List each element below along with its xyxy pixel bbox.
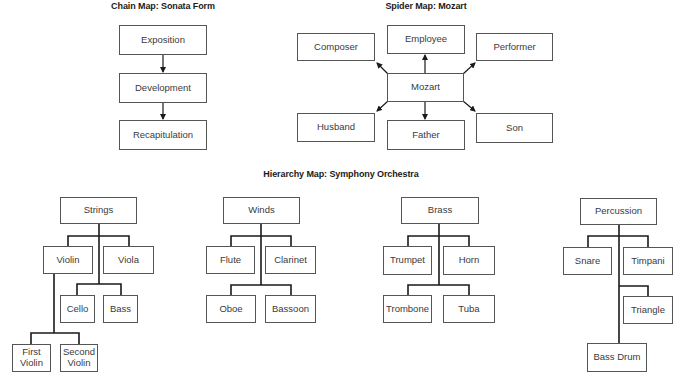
spider-map-title: Spider Map: Mozart — [385, 1, 466, 11]
instrument-oboe: Oboe — [206, 295, 256, 323]
instrument-violin: Violin — [43, 246, 93, 274]
instrument-timpani: Timpani — [623, 247, 673, 275]
chain-map-title: Chain Map: Sonata Form — [111, 1, 215, 11]
instrument-trumpet: Trumpet — [383, 246, 432, 275]
spider-node-performer: Performer — [476, 33, 553, 61]
instrument-trombone: Trombone — [383, 295, 432, 323]
group-percussion: Percussion — [580, 198, 657, 225]
spider-node-father: Father — [387, 120, 465, 150]
chain-step-exposition: Exposition — [119, 25, 207, 55]
instrument-snare: Snare — [563, 247, 612, 275]
spider-node-son: Son — [476, 113, 553, 143]
instrument-second-violin: Second Violin — [60, 344, 98, 372]
spider-node-employee: Employee — [387, 25, 465, 54]
instrument-flute: Flute — [206, 246, 255, 274]
instrument-bassoon: Bassoon — [265, 295, 316, 323]
instrument-tuba: Tuba — [443, 295, 495, 323]
instrument-clarinet: Clarinet — [265, 246, 316, 274]
chain-step-recapitulation: Recapitulation — [119, 120, 207, 150]
instrument-cello: Cello — [60, 295, 95, 323]
instrument-bass-drum: Bass Drum — [587, 343, 647, 372]
spider-center-mozart: Mozart — [387, 73, 464, 102]
group-brass: Brass — [401, 197, 479, 224]
hierarchy-map-title: Hierarchy Map: Symphony Orchestra — [263, 169, 418, 179]
chain-step-development: Development — [119, 73, 207, 103]
spider-node-husband: Husband — [297, 113, 375, 142]
group-winds: Winds — [223, 197, 300, 224]
instrument-viola: Viola — [103, 246, 154, 274]
instrument-first-violin: First Violin — [12, 344, 51, 372]
instrument-triangle: Triangle — [623, 296, 673, 324]
group-strings: Strings — [60, 197, 137, 224]
instrument-bass: Bass — [103, 295, 138, 323]
instrument-horn: Horn — [443, 246, 495, 275]
spider-node-composer: Composer — [297, 33, 375, 61]
